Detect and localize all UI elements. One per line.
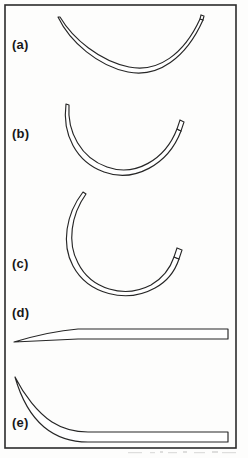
panel-label-a: (a) [12, 37, 29, 52]
panel-label-b: (b) [12, 126, 29, 141]
panel-label-e: (e) [12, 415, 29, 430]
needle-swage-end-a [200, 15, 204, 20]
figure-container: (a) (b) (c) (d) (e) [0, 0, 248, 458]
panel-label-c: (c) [12, 256, 29, 271]
panel-label-d: (d) [12, 305, 29, 320]
needle-shapes-illustration [0, 0, 248, 458]
